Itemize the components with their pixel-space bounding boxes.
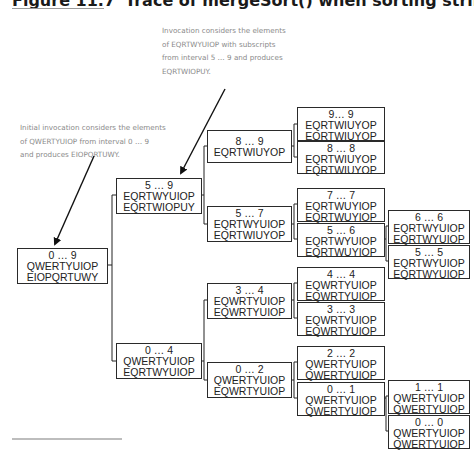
tree-node-5-5: 5 … 5 EQRTWYUIOP EQRTWYUIOP	[388, 245, 470, 279]
annotation-arrows	[55, 89, 225, 244]
node-output: QWERTYUIOP	[298, 406, 384, 417]
tree-node-8-8: 8 … 8 EQRTWIUYOP EQRTWIUYOP	[297, 141, 385, 174]
node-output: EQWRTYUIOP	[208, 307, 291, 318]
tree-node-0-1: 0 … 1 QWERTYUIOP QWERTYUIOP	[297, 382, 385, 416]
bottom-rule	[12, 438, 122, 440]
tree-node-9-9: 9… 9 EQRTWIUYOP EQRTWIUYOP	[297, 107, 385, 141]
node-output: QWERTYUIOP	[389, 439, 469, 450]
node-output: EQRTWIOPUY	[117, 202, 201, 213]
tree-node-8-9: 8 … 9 EQRTWIUYOP	[207, 130, 292, 163]
node-output: QWERTYUIOP	[389, 404, 469, 415]
tree-node-5-7: 5 … 7 EQRTWYUIOP EQRTWIUYOP	[207, 206, 292, 242]
node-output: EQRTWIUYOP	[208, 230, 291, 241]
node-output: EIOPQRTUWY	[18, 272, 107, 283]
node-output: EQRTWIUYOP	[298, 165, 384, 176]
tree-node-3-4: 3 … 4 EQWRTYUIOP EQWRTYUIOP	[207, 283, 292, 319]
tree-node-0-0: 0 … 0 QWERTYUIOP QWERTYUIOP	[388, 415, 470, 449]
tree-node-6-6: 6 … 6 EQRTWYUIOP EQRTWYUIOP	[388, 210, 470, 244]
node-output: EQWRTYUIOP	[298, 291, 384, 302]
node-input: EQRTWIUYOP	[208, 147, 291, 158]
tree-node-5-9: 5 … 9 EQRTWYUIOP EQRTWIOPUY	[116, 178, 202, 214]
tree-node-5-6: 5 … 6 EQRTWYUIOP EQRTWUYIOP	[297, 223, 385, 257]
node-output: EQRTWYUIOP	[389, 234, 469, 245]
arrow-to-root	[55, 156, 94, 244]
tree-node-2-2: 2 … 2 QWERTYUIOP QWERTYUIOP	[297, 346, 385, 380]
tree-node-0-2: 0 … 2 QWERTYUIOP EQWRTYUIOP	[207, 362, 292, 398]
node-output: QWERTYUIOP	[298, 370, 384, 381]
tree-node-0-4: 0 … 4 QWERTYUIOP EQRTWYUIOP	[116, 343, 202, 379]
node-output: EQRTWYUIOP	[389, 269, 469, 280]
node-output: EQRTWYUIOP	[117, 367, 201, 378]
tree-node-3-3: 3 … 3 EQWRTYUIOP EQWRTYUIOP	[297, 302, 385, 336]
tree-node-7-7: 7 … 7 EQRTWUYIOP EQRTWUYIOP	[297, 188, 385, 222]
node-output: EQWRTYUIOP	[298, 326, 384, 337]
tree-node-1-1: 1 … 1 QWERTYUIOP QWERTYUIOP	[388, 380, 470, 414]
node-output: EQRTWUYIOP	[298, 212, 384, 223]
tree-node-0-9: 0 … 9 QWERTYUIOP EIOPQRTUWY	[17, 248, 108, 284]
node-output: EQRTWUYIOP	[298, 247, 384, 258]
node-output: EQWRTYUIOP	[208, 386, 291, 397]
tree-node-4-4: 4 … 4 EQWRTYUIOP EQWRTYUIOP	[297, 267, 385, 301]
